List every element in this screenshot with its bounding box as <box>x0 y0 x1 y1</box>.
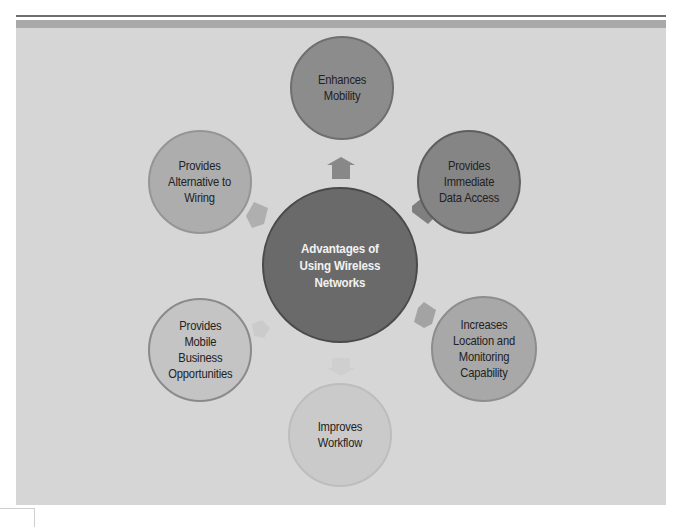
node-location-monitoring: Increases Location and Monitoring Capabi… <box>431 296 537 402</box>
node-label-line: Opportunities <box>168 366 232 382</box>
center-node: Advantages of Using Wireless Networks <box>262 187 418 343</box>
node-label-line: Wiring <box>169 190 232 206</box>
node-label-line: Provides <box>439 158 499 174</box>
node-label-line: Enhances <box>318 72 366 88</box>
top-band <box>16 20 666 28</box>
node-label-line: Provides <box>168 318 232 334</box>
node-label-line: Mobile <box>168 334 232 350</box>
node-enhances-mobility: Enhances Mobility <box>290 36 394 140</box>
node-label-line: Immediate <box>439 174 499 190</box>
center-label-line-3: Networks <box>300 274 381 291</box>
node-label-line: Business <box>168 350 232 366</box>
corner-box <box>0 508 35 527</box>
node-label-line: Location and <box>453 333 515 349</box>
node-label-line: Workflow <box>318 435 363 451</box>
center-label-line-1: Advantages of <box>300 240 381 257</box>
node-mobile-business: Provides Mobile Business Opportunities <box>148 298 252 402</box>
node-label-line: Improves <box>318 419 363 435</box>
node-label-line: Alternative to <box>169 174 232 190</box>
top-rule <box>16 15 666 17</box>
node-improves-workflow: Improves Workflow <box>288 383 392 487</box>
arrow-down-left-icon <box>248 318 272 342</box>
node-label-line: Monitoring <box>453 349 515 365</box>
node-alternative-to-wiring: Provides Alternative to Wiring <box>148 130 252 234</box>
center-label-line-2: Using Wireless <box>300 257 381 274</box>
node-label-line: Data Access <box>439 190 499 206</box>
node-label-line: Provides <box>169 158 232 174</box>
arrow-up-icon <box>326 156 356 180</box>
node-label-line: Capability <box>453 365 515 381</box>
node-label-line: Mobility <box>318 88 366 104</box>
node-label-line: Increases <box>453 317 515 333</box>
arrow-up-left-icon <box>244 200 274 230</box>
arrow-down-icon <box>326 357 356 377</box>
node-immediate-data-access: Provides Immediate Data Access <box>417 130 521 234</box>
